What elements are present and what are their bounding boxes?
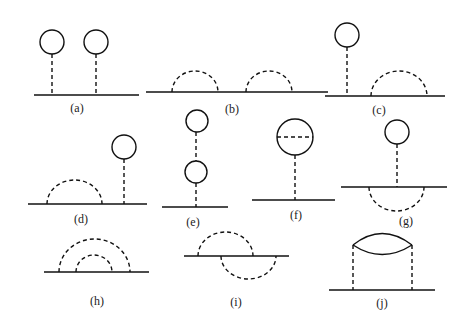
label-h: (h) — [90, 294, 104, 309]
diagram-d — [28, 135, 147, 204]
label-d: (d) — [74, 212, 88, 227]
diagram-c — [325, 23, 445, 96]
label-a: (a) — [70, 101, 83, 116]
diagram-g — [341, 120, 447, 211]
diagram-j — [329, 234, 435, 291]
label-e: (e) — [186, 215, 199, 230]
label-b: (b) — [225, 102, 239, 117]
feynman-diagrams — [0, 0, 469, 325]
label-f: (f) — [290, 208, 302, 223]
diagram-b — [146, 71, 328, 92]
label-c: (c) — [372, 103, 385, 118]
diagram-e — [162, 110, 228, 207]
diagram-f — [252, 119, 335, 200]
label-j: (j) — [376, 296, 387, 311]
label-i: (i) — [230, 295, 241, 310]
label-g: (g) — [399, 214, 413, 229]
diagram-h — [44, 239, 149, 272]
diagram-i — [184, 232, 289, 279]
diagram-a — [34, 30, 139, 95]
